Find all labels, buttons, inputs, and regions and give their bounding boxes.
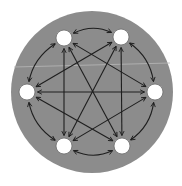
node-n2 [113, 29, 129, 45]
node-n3 [147, 84, 163, 100]
node-n6 [19, 84, 35, 100]
complete-graph-diagram [0, 0, 182, 186]
node-n5 [56, 138, 72, 154]
node-n1 [56, 30, 72, 46]
node-n4 [114, 138, 130, 154]
